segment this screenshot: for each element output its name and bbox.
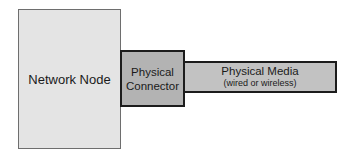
network-node-label: Network Node xyxy=(28,72,110,87)
physical-connector-label-line2: Connector xyxy=(126,79,179,93)
network-node-box: Network Node xyxy=(18,9,121,149)
physical-connector-box: Physical Connector xyxy=(120,50,185,107)
physical-connector-label-line1: Physical xyxy=(131,65,174,79)
physical-media-label: Physical Media xyxy=(221,65,298,78)
physical-media-box: Physical Media (wired or wireless) xyxy=(183,61,337,93)
physical-media-sublabel: (wired or wireless) xyxy=(223,78,296,89)
